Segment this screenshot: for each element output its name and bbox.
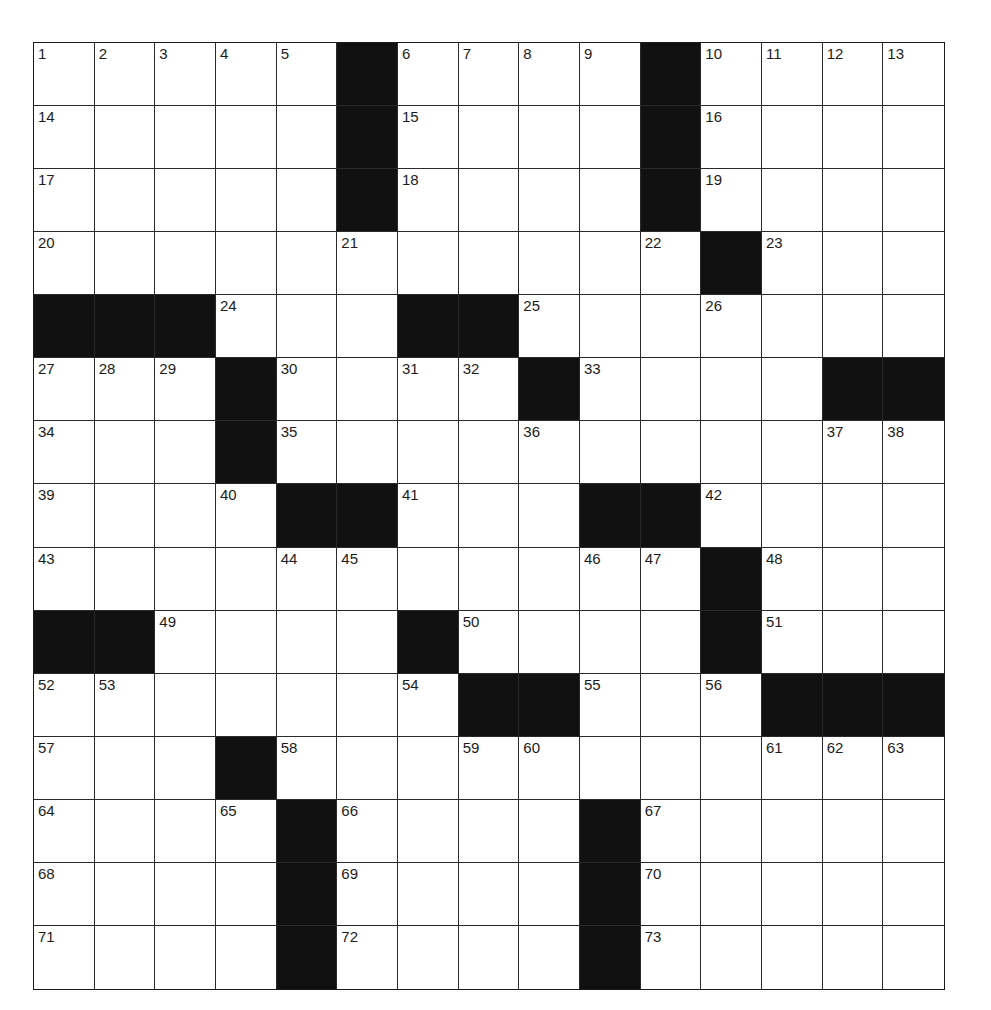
grid-cell[interactable] (216, 674, 277, 737)
grid-cell[interactable] (216, 548, 277, 611)
grid-cell[interactable] (277, 169, 338, 232)
grid-cell[interactable]: 59 (459, 737, 520, 800)
grid-cell[interactable] (155, 737, 216, 800)
grid-cell[interactable] (823, 926, 884, 989)
grid-cell[interactable] (762, 484, 823, 547)
grid-cell[interactable] (883, 169, 944, 232)
grid-cell[interactable] (459, 106, 520, 169)
grid-cell[interactable]: 44 (277, 548, 338, 611)
grid-cell[interactable]: 35 (277, 421, 338, 484)
grid-cell[interactable] (337, 737, 398, 800)
grid-cell[interactable] (216, 926, 277, 989)
grid-cell[interactable] (95, 484, 156, 547)
grid-cell[interactable]: 41 (398, 484, 459, 547)
grid-cell[interactable] (762, 358, 823, 421)
grid-cell[interactable] (701, 926, 762, 989)
grid-cell[interactable] (277, 611, 338, 674)
grid-cell[interactable] (701, 737, 762, 800)
grid-cell[interactable] (459, 421, 520, 484)
grid-cell[interactable] (95, 863, 156, 926)
grid-cell[interactable] (519, 169, 580, 232)
grid-cell[interactable]: 51 (762, 611, 823, 674)
grid-cell[interactable] (95, 800, 156, 863)
grid-cell[interactable] (641, 674, 702, 737)
grid-cell[interactable] (398, 800, 459, 863)
grid-cell[interactable] (701, 863, 762, 926)
grid-cell[interactable] (155, 232, 216, 295)
grid-cell[interactable] (580, 106, 641, 169)
grid-cell[interactable]: 13 (883, 43, 944, 106)
grid-cell[interactable] (459, 863, 520, 926)
grid-cell[interactable]: 58 (277, 737, 338, 800)
grid-cell[interactable] (155, 674, 216, 737)
grid-cell[interactable] (580, 611, 641, 674)
grid-cell[interactable]: 9 (580, 43, 641, 106)
grid-cell[interactable]: 3 (155, 43, 216, 106)
grid-cell[interactable]: 28 (95, 358, 156, 421)
grid-cell[interactable] (762, 926, 823, 989)
grid-cell[interactable] (762, 106, 823, 169)
grid-cell[interactable] (277, 295, 338, 358)
grid-cell[interactable]: 73 (641, 926, 702, 989)
grid-cell[interactable]: 54 (398, 674, 459, 737)
grid-cell[interactable] (337, 295, 398, 358)
grid-cell[interactable] (762, 863, 823, 926)
grid-cell[interactable] (155, 800, 216, 863)
grid-cell[interactable] (459, 232, 520, 295)
grid-cell[interactable] (277, 106, 338, 169)
grid-cell[interactable] (519, 863, 580, 926)
grid-cell[interactable] (95, 737, 156, 800)
grid-cell[interactable]: 49 (155, 611, 216, 674)
grid-cell[interactable] (823, 800, 884, 863)
grid-cell[interactable] (398, 926, 459, 989)
grid-cell[interactable] (823, 863, 884, 926)
grid-cell[interactable] (883, 611, 944, 674)
grid-cell[interactable]: 16 (701, 106, 762, 169)
grid-cell[interactable] (155, 421, 216, 484)
grid-cell[interactable] (580, 421, 641, 484)
grid-cell[interactable] (216, 169, 277, 232)
grid-cell[interactable]: 67 (641, 800, 702, 863)
grid-cell[interactable]: 70 (641, 863, 702, 926)
grid-cell[interactable]: 32 (459, 358, 520, 421)
grid-cell[interactable] (641, 358, 702, 421)
grid-cell[interactable]: 5 (277, 43, 338, 106)
grid-cell[interactable]: 71 (34, 926, 95, 989)
grid-cell[interactable] (216, 863, 277, 926)
grid-cell[interactable]: 56 (701, 674, 762, 737)
grid-cell[interactable]: 65 (216, 800, 277, 863)
grid-cell[interactable] (337, 674, 398, 737)
grid-cell[interactable] (701, 358, 762, 421)
grid-cell[interactable] (519, 106, 580, 169)
grid-cell[interactable]: 66 (337, 800, 398, 863)
grid-cell[interactable] (95, 926, 156, 989)
grid-cell[interactable] (641, 611, 702, 674)
grid-cell[interactable]: 17 (34, 169, 95, 232)
grid-cell[interactable] (277, 232, 338, 295)
grid-cell[interactable]: 15 (398, 106, 459, 169)
grid-cell[interactable]: 1 (34, 43, 95, 106)
grid-cell[interactable] (580, 737, 641, 800)
grid-cell[interactable]: 37 (823, 421, 884, 484)
grid-cell[interactable]: 30 (277, 358, 338, 421)
grid-cell[interactable]: 39 (34, 484, 95, 547)
grid-cell[interactable] (459, 169, 520, 232)
grid-cell[interactable] (519, 484, 580, 547)
grid-cell[interactable] (823, 106, 884, 169)
grid-cell[interactable] (398, 232, 459, 295)
grid-cell[interactable] (216, 232, 277, 295)
grid-cell[interactable]: 20 (34, 232, 95, 295)
grid-cell[interactable]: 10 (701, 43, 762, 106)
grid-cell[interactable]: 47 (641, 548, 702, 611)
grid-cell[interactable]: 2 (95, 43, 156, 106)
grid-cell[interactable]: 33 (580, 358, 641, 421)
grid-cell[interactable] (155, 548, 216, 611)
grid-cell[interactable]: 4 (216, 43, 277, 106)
grid-cell[interactable] (883, 106, 944, 169)
grid-cell[interactable] (519, 232, 580, 295)
grid-cell[interactable] (459, 926, 520, 989)
grid-cell[interactable] (823, 611, 884, 674)
grid-cell[interactable]: 22 (641, 232, 702, 295)
grid-cell[interactable] (641, 737, 702, 800)
grid-cell[interactable] (216, 611, 277, 674)
